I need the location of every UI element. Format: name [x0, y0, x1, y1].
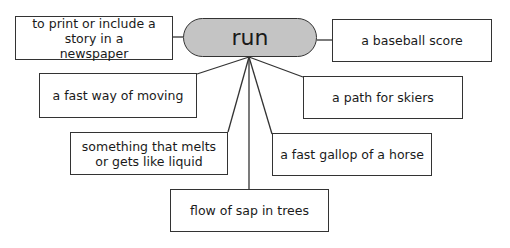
meaning-box-skiers: a path for skiers	[303, 76, 463, 119]
meaning-text: a fast gallop of a horse	[280, 147, 424, 162]
meaning-box-melts: something that melts or gets like liquid	[70, 132, 228, 175]
center-word: run	[232, 25, 269, 50]
meaning-box-horse: a fast gallop of a horse	[272, 133, 432, 176]
meaning-text: a fast way of moving	[53, 88, 184, 103]
meaning-box-sap: flow of sap in trees	[170, 189, 329, 232]
meaning-box-moving: a fast way of moving	[39, 73, 197, 118]
meaning-text: a baseball score	[361, 33, 463, 48]
meaning-box-baseball: a baseball score	[332, 19, 492, 62]
meaning-text: something that melts or gets like liquid	[82, 139, 217, 169]
center-word-node: run	[183, 18, 317, 57]
meaning-text: a path for skiers	[332, 90, 434, 105]
meaning-box-newspaper: to print or include a story in a newspap…	[15, 16, 173, 60]
meaning-text: to print or include a story in a newspap…	[29, 16, 159, 61]
meaning-text: flow of sap in trees	[190, 203, 309, 218]
